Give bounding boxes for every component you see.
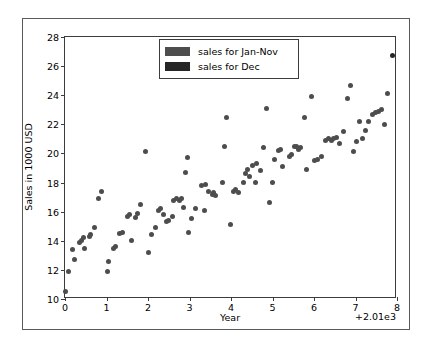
- scatter-point: [135, 211, 140, 216]
- y-tick-mark: [61, 270, 65, 271]
- x-tick-mark: [231, 297, 232, 301]
- scatter-point: [127, 212, 132, 217]
- scatter-point: [357, 119, 362, 124]
- scatter-point: [264, 106, 269, 111]
- scatter-point: [129, 238, 134, 243]
- scatter-point: [345, 96, 350, 101]
- figure-canvas: Sales in 1000 USD Year +2.01e3 101214161…: [0, 0, 427, 347]
- scatter-point: [382, 122, 387, 127]
- legend-label-jan-nov: sales for Jan-Nov: [198, 47, 278, 57]
- scatter-point: [149, 232, 154, 237]
- x-tick-mark: [356, 297, 357, 301]
- x-tick-mark: [314, 297, 315, 301]
- plot-area: 10121416182022242628 012345678 sales for…: [64, 36, 396, 298]
- y-tick-mark: [61, 37, 65, 38]
- scatter-point: [105, 269, 110, 274]
- x-tick-mark: [273, 297, 274, 301]
- legend-swatch-dec: [165, 62, 190, 71]
- scatter-point: [133, 215, 138, 220]
- scatter-point: [228, 222, 233, 227]
- scatter-point: [70, 247, 75, 252]
- scatter-point: [385, 91, 390, 96]
- scatter-point: [254, 161, 259, 166]
- scatter-point: [302, 115, 307, 120]
- y-tick-mark: [61, 124, 65, 125]
- scatter-point: [270, 180, 275, 185]
- legend-item: sales for Jan-Nov: [165, 44, 292, 59]
- scatter-point: [106, 259, 111, 264]
- scatter-point: [253, 180, 258, 185]
- x-axis-label: Year: [220, 312, 240, 323]
- y-axis-label: Sales in 1000 USD: [23, 123, 34, 210]
- x-tick-mark: [190, 297, 191, 301]
- scatter-point: [99, 189, 104, 194]
- x-tick-mark: [65, 297, 66, 301]
- y-tick-mark: [61, 153, 65, 154]
- x-tick-mark: [148, 297, 149, 301]
- y-tick-mark: [61, 241, 65, 242]
- scatter-point: [220, 180, 225, 185]
- scatter-point: [92, 225, 97, 230]
- scatter-point: [366, 119, 371, 124]
- scatter-point: [267, 200, 272, 205]
- scatter-point: [309, 94, 314, 99]
- scatter-point: [337, 141, 342, 146]
- scatter-point: [161, 212, 166, 217]
- legend-label-dec: sales for Dec: [198, 62, 260, 72]
- scatter-point: [245, 167, 250, 172]
- chart-legend: sales for Jan-Nov sales for Dec: [159, 39, 299, 79]
- y-tick-mark: [61, 95, 65, 96]
- scatter-point: [82, 246, 87, 251]
- x-axis-offset-text: +2.01e3: [355, 311, 396, 322]
- scatter-point: [138, 202, 143, 207]
- scatter-point: [241, 180, 246, 185]
- y-tick-mark: [61, 212, 65, 213]
- scatter-point: [153, 225, 158, 230]
- scatter-point: [236, 190, 241, 195]
- scatter-point: [289, 152, 294, 157]
- scatter-point: [379, 107, 384, 112]
- scatter-point: [348, 83, 353, 88]
- scatter-point: [341, 129, 346, 134]
- scatter-point: [360, 136, 365, 141]
- scatter-point: [319, 154, 324, 159]
- scatter-point: [143, 149, 148, 154]
- scatter-point: [390, 53, 395, 58]
- scatter-point: [278, 147, 283, 152]
- scatter-point: [72, 257, 77, 262]
- scatter-point: [113, 244, 118, 249]
- legend-item: sales for Dec: [165, 59, 292, 74]
- scatter-point: [280, 164, 285, 169]
- scatter-point: [334, 135, 339, 140]
- scatter-point: [272, 157, 277, 162]
- scatter-point: [181, 205, 186, 210]
- scatter-point: [186, 230, 191, 235]
- scatter-point: [81, 235, 86, 240]
- scatter-point: [63, 289, 68, 294]
- scatter-point: [185, 155, 190, 160]
- scatter-point: [298, 145, 303, 150]
- scatter-point: [189, 216, 194, 221]
- scatter-point: [222, 144, 227, 149]
- scatter-point: [304, 167, 309, 172]
- scatter-point: [203, 182, 208, 187]
- scatter-point: [183, 170, 188, 175]
- x-tick-mark: [397, 297, 398, 301]
- scatter-point: [354, 139, 359, 144]
- scatter-point: [179, 196, 184, 201]
- scatter-point: [258, 168, 263, 173]
- scatter-point: [88, 232, 93, 237]
- scatter-point: [351, 149, 356, 154]
- scatter-point: [158, 206, 163, 211]
- scatter-point: [261, 145, 266, 150]
- y-tick-mark: [61, 183, 65, 184]
- scatter-point: [213, 193, 218, 198]
- scatter-point: [96, 196, 101, 201]
- scatter-point: [166, 218, 171, 223]
- scatter-point: [66, 269, 71, 274]
- scatter-point: [146, 250, 151, 255]
- y-tick-mark: [61, 66, 65, 67]
- scatter-point: [247, 174, 252, 179]
- scatter-point: [202, 208, 207, 213]
- x-tick-mark: [107, 297, 108, 301]
